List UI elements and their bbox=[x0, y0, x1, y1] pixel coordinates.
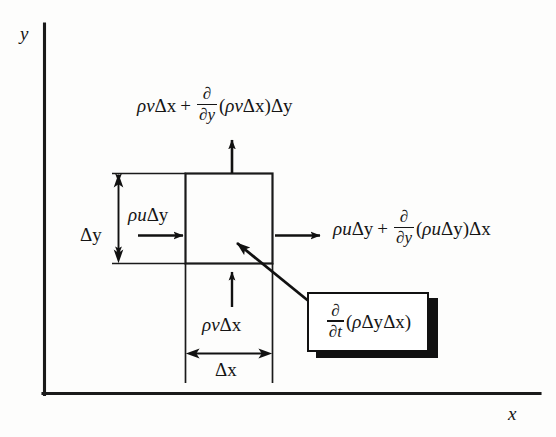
right-outflow-fraction: ∂ ∂y bbox=[394, 208, 414, 247]
right-outflow-label: ρuΔy + ∂ ∂y (ρuΔy)Δx bbox=[333, 209, 491, 248]
left-inflow-rho: ρ bbox=[128, 205, 137, 224]
right-outflow-frac-denominator: ∂y bbox=[394, 228, 414, 247]
left-inflow-label: ρuΔy bbox=[128, 205, 168, 224]
bottom-inflow-delta: Δx bbox=[220, 315, 242, 334]
right-outflow-trailing-delta: Δx bbox=[469, 219, 491, 238]
top-outflow-base-rho: ρ bbox=[137, 96, 146, 115]
axis-label-y: y bbox=[20, 24, 28, 43]
bottom-inflow-var: v bbox=[211, 315, 219, 334]
delta-y-label: Δy bbox=[80, 225, 102, 244]
top-outflow-label: ρvΔx + ∂ ∂y (ρvΔx)Δy bbox=[137, 86, 293, 125]
top-outflow-frac-numerator: ∂ bbox=[201, 85, 213, 104]
right-outflow-base-var: u bbox=[342, 219, 352, 238]
diagram-canvas: y x Δy Δx ρuΔy ρvΔx ρvΔx + ∂ ∂y (ρvΔx)Δy bbox=[0, 0, 556, 437]
delta-x-text: Δx bbox=[215, 360, 237, 379]
top-outflow-frac-denominator: ∂y bbox=[197, 105, 217, 124]
bottom-inflow-label: ρvΔx bbox=[202, 315, 241, 334]
storage-term-callout-box: ∂ ∂t (ρΔyΔx) bbox=[307, 292, 429, 352]
top-outflow-inner-rho: ρ bbox=[225, 96, 234, 115]
axis-label-x: x bbox=[508, 404, 516, 423]
right-outflow-plus: + bbox=[373, 219, 392, 238]
top-outflow-fraction: ∂ ∂y bbox=[197, 85, 217, 124]
storage-term-expression: ∂ ∂t (ρΔyΔx) bbox=[325, 303, 411, 342]
storage-frac-numerator: ∂ bbox=[329, 302, 341, 321]
right-outflow-inner-var: u bbox=[431, 219, 441, 238]
top-outflow-base-var: v bbox=[146, 96, 154, 115]
top-outflow-plus: + bbox=[176, 96, 195, 115]
control-volume-rect bbox=[186, 174, 273, 264]
delta-x-label: Δx bbox=[215, 360, 237, 379]
top-outflow-inner-delta: Δx bbox=[243, 96, 265, 115]
top-outflow-trailing-delta: Δy bbox=[271, 96, 293, 115]
top-outflow-base-delta: Δx bbox=[155, 96, 177, 115]
storage-rho: ρ bbox=[352, 311, 361, 333]
storage-delta-x: Δx bbox=[383, 311, 405, 333]
callout-leader-line bbox=[237, 243, 311, 303]
storage-delta-y: Δy bbox=[361, 311, 383, 333]
right-outflow-inner-delta: Δy bbox=[441, 219, 463, 238]
storage-close-paren: ) bbox=[405, 311, 411, 333]
right-outflow-inner-rho: ρ bbox=[422, 219, 431, 238]
right-outflow-base-delta: Δy bbox=[352, 219, 374, 238]
right-outflow-frac-numerator: ∂ bbox=[398, 208, 410, 227]
bottom-inflow-rho: ρ bbox=[202, 315, 211, 334]
left-inflow-var: u bbox=[137, 205, 147, 224]
left-inflow-delta: Δy bbox=[147, 205, 169, 224]
delta-y-text: Δy bbox=[80, 225, 102, 244]
storage-frac-denominator: ∂t bbox=[327, 322, 344, 341]
right-outflow-base-rho: ρ bbox=[333, 219, 342, 238]
top-outflow-inner-var: v bbox=[234, 96, 242, 115]
storage-term-fraction: ∂ ∂t bbox=[327, 302, 344, 341]
